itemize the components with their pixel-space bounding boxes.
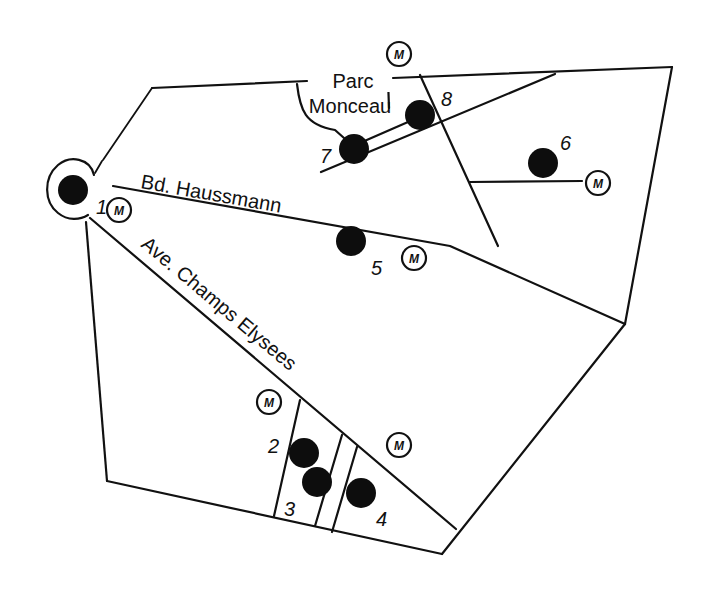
paris-district-map: 12345678 MMMMMM Parc Monceau Bd. Haussma… xyxy=(0,0,725,597)
site-4: 4 xyxy=(346,478,387,530)
site-number-label: 8 xyxy=(441,88,452,110)
site-number-label: 6 xyxy=(560,132,572,154)
site-marker-icon xyxy=(289,438,319,468)
site-number-label: 2 xyxy=(267,435,279,457)
site-number-label: 5 xyxy=(371,257,383,279)
street-east-boundary xyxy=(625,67,672,324)
metro-station-icon: M xyxy=(586,171,610,195)
svg-text:M: M xyxy=(409,252,420,266)
street-to-metro-6 xyxy=(470,181,582,182)
svg-text:M: M xyxy=(394,48,405,62)
street-champs-elysees xyxy=(90,218,456,529)
site-marker-icon xyxy=(528,148,558,178)
street-top-boundary xyxy=(152,67,672,88)
site-number-label: 4 xyxy=(376,508,387,530)
street-southeast-boundary xyxy=(442,324,625,554)
streets xyxy=(86,67,672,554)
street-west-boundary xyxy=(86,222,107,481)
sites: 12345678 xyxy=(58,88,572,530)
site-marker-icon xyxy=(336,226,366,256)
site-marker-icon xyxy=(339,134,369,164)
site-marker-icon xyxy=(346,478,376,508)
street-north-south-diagonal xyxy=(420,75,498,246)
champs-elysees-label: Ave. Champs Elysees xyxy=(137,232,301,374)
street-northwest-link xyxy=(95,88,152,173)
site-marker-icon xyxy=(58,175,88,205)
site-5: 5 xyxy=(336,226,383,279)
site-number-label: 3 xyxy=(284,498,295,520)
metro-station-icon: M xyxy=(107,198,131,222)
parc-monceau-label-line2: Monceau xyxy=(309,95,391,117)
metro-station-icon: M xyxy=(387,42,411,66)
parc-monceau-label-line1: Parc xyxy=(332,70,373,92)
site-marker-icon xyxy=(302,467,332,497)
site-6: 6 xyxy=(528,132,572,178)
bd-haussmann-label: Bd. Haussmann xyxy=(139,170,283,216)
svg-text:M: M xyxy=(264,396,275,410)
site-2: 2 xyxy=(267,435,319,468)
metro-station-icon: M xyxy=(257,390,281,414)
site-marker-icon xyxy=(405,100,435,130)
site-3: 3 xyxy=(284,467,332,520)
street-south-boundary xyxy=(107,481,442,554)
svg-text:M: M xyxy=(394,439,405,453)
site-1: 1 xyxy=(58,175,107,218)
site-number-label: 1 xyxy=(96,196,107,218)
site-number-label: 7 xyxy=(320,145,332,167)
metro-station-icon: M xyxy=(387,433,411,457)
svg-text:M: M xyxy=(114,204,125,218)
svg-text:M: M xyxy=(593,177,604,191)
metro-station-icon: M xyxy=(402,246,426,270)
